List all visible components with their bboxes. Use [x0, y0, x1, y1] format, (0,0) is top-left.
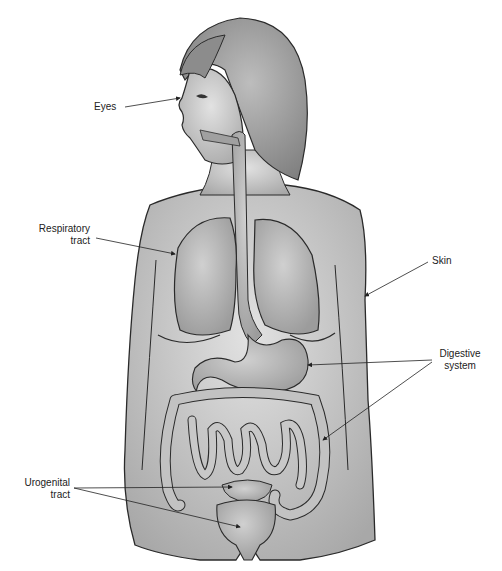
- eyes-leader: [125, 98, 180, 107]
- label-digestive-system: Digestive system: [430, 348, 490, 372]
- label-skin: Skin: [432, 255, 451, 267]
- label-urogenital-tract: Urogenital tract: [10, 477, 70, 501]
- body-illustration: [0, 0, 502, 571]
- label-eyes: Eyes: [94, 101, 116, 113]
- label-respiratory-tract: Respiratory tract: [20, 223, 90, 247]
- skin-leader: [365, 262, 428, 296]
- anatomy-figure: Eyes Respiratory tract Skin Digestive sy…: [0, 0, 502, 571]
